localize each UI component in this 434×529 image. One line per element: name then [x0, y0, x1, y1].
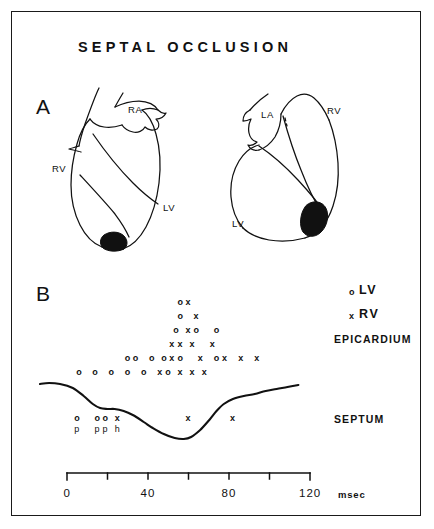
- axis-tick-label-40: 40: [141, 487, 156, 499]
- figure-root: SEPTAL OCCLUSION A: [0, 0, 434, 529]
- axis-tick-label-80: 80: [222, 487, 237, 499]
- axis-tick-label-0: 0: [64, 487, 71, 499]
- axis-tick-label-120: 120: [299, 487, 321, 499]
- axis-unit-label: msec: [338, 489, 366, 500]
- time-axis: [0, 0, 434, 529]
